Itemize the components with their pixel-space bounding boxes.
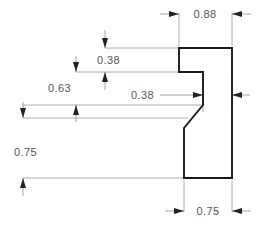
arrow-head-038h-top [102, 38, 108, 48]
arrow-head-075w-left [174, 208, 184, 214]
dimension-text-group: 0.88 0.75 0.38 0.38 0.63 0.75 [14, 8, 220, 217]
dim-label-width-075: 0.75 [196, 205, 219, 217]
arrow-head-075h-bottom [20, 178, 26, 188]
arrow-head-088-right [232, 11, 242, 17]
profile-outline-group [179, 48, 232, 178]
arrow-head-063h-bottom [73, 105, 79, 115]
arrow-heads-group [20, 11, 242, 214]
dim-label-height-038: 0.38 [97, 54, 120, 66]
arrow-head-088-left [169, 11, 179, 17]
drawing-svg: 0.88 0.75 0.38 0.38 0.63 0.75 [0, 0, 273, 228]
profile-outline [179, 48, 232, 178]
arrow-head-038w-right [232, 92, 242, 98]
arrow-head-038w-left [193, 92, 203, 98]
arrow-head-038h-bottom [102, 72, 108, 82]
arrow-head-075h-top [20, 108, 26, 118]
dim-label-height-075: 0.75 [14, 146, 37, 158]
extension-lines-group [23, 13, 232, 212]
engineering-drawing-canvas: 0.88 0.75 0.38 0.38 0.63 0.75 [0, 0, 273, 228]
dim-label-height-063: 0.63 [48, 82, 71, 94]
dim-label-width-088: 0.88 [193, 8, 216, 20]
dim-label-width-038: 0.38 [131, 89, 154, 101]
arrow-head-075w-right [232, 208, 242, 214]
arrow-head-063h-top [73, 62, 79, 72]
dimension-lines-group [23, 14, 251, 211]
